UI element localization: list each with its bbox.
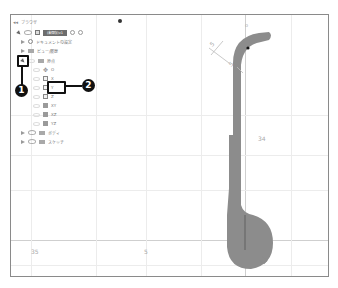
tree-label: Z [51, 94, 54, 99]
eye-icon[interactable] [33, 95, 40, 99]
tree-label: O [51, 67, 54, 72]
app-window: 5 5 o 35 5 34 ◂◂ ブラウザ (未保存)v1 ドキュメントの設定 … [10, 14, 329, 277]
folder-icon [39, 131, 45, 135]
tree-label: XZ [51, 112, 56, 117]
eye-icon[interactable] [33, 77, 40, 81]
dimension-label: 34 [258, 135, 266, 142]
eye-icon[interactable] [33, 68, 40, 72]
tree-label: YZ [51, 121, 56, 126]
collapse-arrow-icon[interactable]: ◂◂ [13, 19, 18, 25]
eye-icon[interactable] [24, 30, 32, 35]
origin-plane-yz[interactable]: YZ [33, 119, 56, 128]
tree-item-views[interactable]: ビュー/履歴 [21, 46, 58, 55]
tree-item-document-settings[interactable]: ドキュメントの設定 [21, 37, 72, 46]
eye-icon[interactable] [28, 59, 35, 63]
plane-icon [43, 121, 48, 126]
browser-header[interactable]: ◂◂ ブラウザ [13, 17, 128, 26]
expand-icon[interactable] [21, 49, 25, 53]
component-label[interactable]: (未保存)v1 [43, 30, 67, 36]
origin-point-o[interactable]: ✥ O [33, 65, 54, 74]
tree-label: 原点 [47, 58, 55, 64]
eye-icon[interactable] [33, 86, 40, 90]
tree-item-bodies[interactable]: ボディ [21, 128, 60, 137]
pin-icon[interactable] [118, 19, 122, 23]
radio-icon[interactable] [70, 30, 75, 35]
dimension-label: 5 [144, 248, 148, 255]
eye-icon[interactable] [33, 104, 40, 108]
eye-icon[interactable] [28, 139, 36, 144]
tree-label: ドキュメントの設定 [36, 39, 72, 45]
tree-label: ビュー/履歴 [37, 48, 58, 54]
tree-label: XY [51, 103, 56, 108]
eye-icon[interactable] [28, 130, 36, 135]
plane-icon [43, 112, 48, 117]
dimension-label: 35 [31, 248, 39, 255]
callout-leader-1 [21, 65, 23, 85]
expand-open-icon[interactable] [16, 30, 22, 36]
expand-icon[interactable] [21, 40, 25, 44]
tree-item-sketches[interactable]: スケッチ [21, 137, 64, 146]
callout-badge-1: 1 [15, 84, 28, 97]
tree-label: ボディ [48, 130, 60, 136]
callout-badge-2: 2 [82, 79, 95, 92]
axis-icon [43, 94, 48, 99]
origin-plane-xz[interactable]: XZ [33, 110, 56, 119]
callout-highlight-2 [47, 81, 66, 94]
eye-icon[interactable] [33, 113, 40, 117]
expand-icon[interactable] [21, 131, 25, 135]
plane-icon [43, 103, 48, 108]
component-row[interactable]: (未保存)v1 [17, 28, 83, 37]
target-icon[interactable] [78, 30, 83, 35]
origin-plane-xy[interactable]: XY [33, 101, 56, 110]
tree-label: スケッチ [48, 139, 64, 145]
svg-text:o: o [245, 22, 248, 28]
folder-icon [28, 49, 34, 53]
sketch-point [246, 46, 249, 49]
component-icon [35, 30, 40, 35]
svg-text:5: 5 [208, 40, 216, 48]
browser-title: ブラウザ [21, 19, 37, 25]
origin-point-icon: ✥ [43, 67, 48, 72]
eye-icon[interactable] [33, 122, 40, 126]
folder-icon [38, 59, 44, 63]
callout-leader-2 [66, 85, 82, 87]
expand-icon[interactable] [21, 140, 25, 144]
gear-icon [28, 39, 33, 44]
folder-icon [39, 140, 45, 144]
callout-highlight-1 [17, 55, 29, 67]
